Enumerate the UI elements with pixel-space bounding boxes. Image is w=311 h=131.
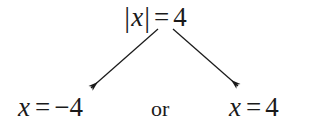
branch-arrow-left	[91, 29, 158, 88]
right-solution-equation: x=4	[228, 94, 279, 121]
branch-arrow-right	[173, 29, 238, 86]
right-solution-equals-sign: =	[242, 92, 265, 122]
right-solution-value: 4	[265, 92, 279, 122]
conjunction-or: or	[151, 98, 169, 120]
left-solution-value: −4	[54, 92, 83, 122]
solutions-row: x=−4 or x=4	[0, 94, 311, 128]
left-solution-equation: x=−4	[17, 94, 83, 121]
absolute-value-branching-diagram: |x|=4 x=−4 or x=4	[0, 0, 311, 131]
right-solution-variable: x	[228, 92, 242, 122]
left-solution-equals-sign: =	[31, 92, 54, 122]
left-solution-variable: x	[17, 92, 31, 122]
